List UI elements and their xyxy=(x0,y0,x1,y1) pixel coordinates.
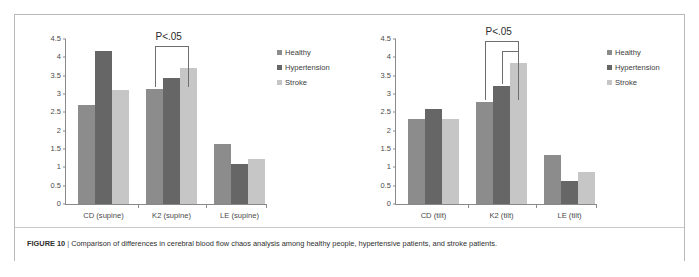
bar-hypertension[interactable] xyxy=(95,51,112,204)
bar-group xyxy=(212,39,267,204)
legend-label: Stroke xyxy=(615,79,637,87)
significance-bracket xyxy=(502,51,519,83)
y-axis-tick-mark xyxy=(393,167,396,168)
bar-hypertension[interactable] xyxy=(493,86,510,204)
bar-healthy[interactable] xyxy=(78,105,95,204)
legend-item-hypertension[interactable]: Hypertension xyxy=(277,60,330,75)
legend-label: Healthy xyxy=(615,49,641,57)
bar-stroke[interactable] xyxy=(180,68,197,204)
bar-hypertension[interactable] xyxy=(425,109,442,204)
y-axis-tick-mark xyxy=(393,39,396,40)
bar-healthy[interactable] xyxy=(146,89,163,204)
legend-swatch-icon xyxy=(607,80,612,85)
y-axis-tick-mark xyxy=(393,130,396,131)
charts-row: 00.511.522.533.544.5CD (supine)K2 (supin… xyxy=(15,15,684,227)
x-axis-category-label: LE (supine) xyxy=(204,212,275,220)
legend-swatch-icon xyxy=(607,50,612,55)
y-axis-tick-mark xyxy=(63,39,66,40)
legend-label: Healthy xyxy=(285,49,311,57)
x-axis-category-label: K2 (tilt) xyxy=(466,212,537,220)
figure-root: 00.511.522.533.544.5CD (supine)K2 (supin… xyxy=(0,0,699,277)
bar-stroke[interactable] xyxy=(112,90,129,204)
y-axis-tick-mark xyxy=(393,204,396,205)
bar-hypertension[interactable] xyxy=(231,164,248,204)
bar-healthy[interactable] xyxy=(544,155,561,204)
x-axis-line xyxy=(65,204,266,205)
legend-swatch-icon xyxy=(277,65,282,70)
bar-group xyxy=(76,39,131,204)
chart-panel-tilt: 00.511.522.533.544.5CD (tilt)K2 (tilt)LE… xyxy=(349,15,683,227)
figure-caption: FIGURE 10|Comparison of differences in c… xyxy=(27,239,674,248)
x-axis-category-label: LE (tilt) xyxy=(534,212,605,220)
x-axis-category-label: K2 (supine) xyxy=(136,212,207,220)
x-axis-line xyxy=(395,204,596,205)
figure-caption-bar: FIGURE 10|Comparison of differences in c… xyxy=(15,227,684,261)
bar-healthy[interactable] xyxy=(408,119,425,204)
y-axis-tick-mark xyxy=(63,167,66,168)
plot-area: 00.511.522.533.544.5CD (supine)K2 (supin… xyxy=(66,39,266,204)
y-axis-tick-mark xyxy=(63,149,66,150)
y-axis-tick-mark xyxy=(63,204,66,205)
legend-item-stroke[interactable]: Stroke xyxy=(607,75,660,90)
legend-item-stroke[interactable]: Stroke xyxy=(277,75,330,90)
y-axis-tick-mark xyxy=(63,57,66,58)
legend-swatch-icon xyxy=(607,65,612,70)
legend-swatch-icon xyxy=(277,50,282,55)
bar-healthy[interactable] xyxy=(476,102,493,204)
y-axis-tick-mark xyxy=(393,57,396,58)
bar-healthy[interactable] xyxy=(214,144,231,204)
bar-group xyxy=(542,39,597,204)
x-axis-category-label: CD (supine) xyxy=(68,212,139,220)
legend-label: Hypertension xyxy=(285,64,330,72)
figure-caption-body: Comparison of differences in cerebral bl… xyxy=(71,239,497,248)
x-axis-tick-mark xyxy=(266,204,267,208)
y-axis-tick-mark xyxy=(63,75,66,76)
chart-legend: HealthyHypertensionStroke xyxy=(607,45,660,90)
chart-panel-supine: 00.511.522.533.544.5CD (supine)K2 (supin… xyxy=(19,15,353,227)
x-axis-tick-mark xyxy=(596,204,597,208)
bar-stroke[interactable] xyxy=(248,159,265,204)
chart-legend: HealthyHypertensionStroke xyxy=(277,45,330,90)
p-value-annotation: P<.05 xyxy=(156,32,182,42)
y-axis-tick-mark xyxy=(393,149,396,150)
bar-group xyxy=(406,39,461,204)
bar-stroke[interactable] xyxy=(578,172,595,204)
x-axis-tick-mark xyxy=(138,204,139,208)
y-axis-tick-mark xyxy=(393,94,396,95)
x-axis-category-label: CD (tilt) xyxy=(398,212,469,220)
legend-item-hypertension[interactable]: Hypertension xyxy=(607,60,660,75)
figure-box: 00.511.522.533.544.5CD (supine)K2 (supin… xyxy=(14,14,685,261)
legend-item-healthy[interactable]: Healthy xyxy=(277,45,330,60)
y-axis-tick-mark xyxy=(63,185,66,186)
y-axis-tick-mark xyxy=(393,112,396,113)
legend-swatch-icon xyxy=(277,80,282,85)
y-axis-tick-mark xyxy=(393,75,396,76)
plot-area: 00.511.522.533.544.5CD (tilt)K2 (tilt)LE… xyxy=(396,39,596,204)
significance-bracket xyxy=(155,46,189,87)
legend-item-healthy[interactable]: Healthy xyxy=(607,45,660,60)
x-axis-tick-mark xyxy=(206,204,207,208)
y-axis-tick-mark xyxy=(63,130,66,131)
bar-hypertension[interactable] xyxy=(163,78,180,205)
legend-label: Hypertension xyxy=(615,64,660,72)
bar-stroke[interactable] xyxy=(442,119,459,204)
y-axis-tick-mark xyxy=(393,185,396,186)
y-axis-tick-mark xyxy=(63,112,66,113)
legend-label: Stroke xyxy=(285,79,307,87)
bar-hypertension[interactable] xyxy=(561,181,578,204)
figure-caption-label: FIGURE 10 xyxy=(27,239,65,248)
y-axis-tick-mark xyxy=(63,94,66,95)
x-axis-tick-mark xyxy=(468,204,469,208)
x-axis-tick-mark xyxy=(536,204,537,208)
p-value-annotation: P<.05 xyxy=(486,27,512,37)
